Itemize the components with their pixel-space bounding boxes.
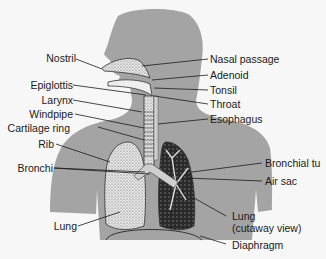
label-larynx: Larynx (0, 95, 73, 106)
label-esophagus: Esophagus (210, 114, 263, 125)
lung-left (105, 142, 146, 230)
label-rib: Rib (0, 139, 54, 150)
esophagus-shape (154, 96, 158, 160)
windpipe-shape (144, 96, 154, 166)
label-air-sac: Air sac (265, 176, 297, 187)
label-epiglottis: Epiglottis (0, 80, 73, 91)
label-nasal-passage: Nasal passage (210, 54, 279, 65)
label-cartilage-ring: Cartilage ring (0, 123, 70, 134)
label-lung-cutaway-subtext: (cutaway view) (232, 223, 301, 234)
label-bronchial-tube: Bronchial tu (265, 158, 320, 169)
label-windpipe: Windpipe (0, 109, 73, 120)
label-nostril: Nostril (0, 53, 76, 64)
label-tonsil: Tonsil (210, 85, 237, 96)
label-adenoid: Adenoid (210, 70, 249, 81)
label-bronchi: Bronchi (0, 163, 53, 174)
label-diaphragm: Diaphragm (232, 240, 283, 251)
label-throat: Throat (210, 99, 240, 110)
label-lung-cutaway: Lung (232, 211, 255, 222)
label-lung: Lung (0, 221, 77, 232)
